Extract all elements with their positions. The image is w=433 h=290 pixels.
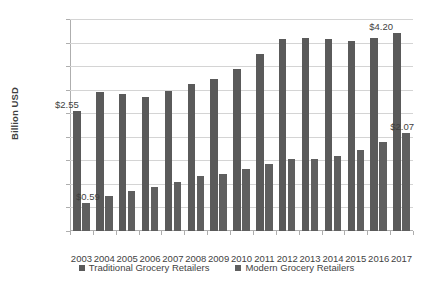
gridline [70, 43, 413, 44]
bar-traditional-grocery-retailers-2003 [73, 111, 81, 231]
data-label: $4.20 [369, 21, 393, 32]
plot-area: $0.00$0.50$1.00$1.50$2.00$2.50$3.00$3.50… [70, 19, 413, 231]
y-axis-tick-mark [66, 19, 70, 20]
bar-traditional-grocery-retailers-2013 [302, 38, 310, 231]
y-axis-tick-mark [66, 137, 70, 138]
y-axis-title: Billion USD [9, 69, 20, 159]
bar-traditional-grocery-retailers-2016 [370, 38, 378, 231]
bar-traditional-grocery-retailers-2015 [348, 41, 356, 231]
bar-traditional-grocery-retailers-2004 [96, 92, 104, 231]
bar-modern-grocery-retailers-2010 [242, 169, 250, 231]
y-axis-tick-mark [66, 43, 70, 44]
x-axis-tick-mark [70, 231, 71, 235]
legend-label: Modern Grocery Retailers [245, 262, 354, 273]
x-axis-tick-mark [276, 231, 277, 235]
x-axis-tick-mark [93, 231, 94, 235]
bar-modern-grocery-retailers-2007 [174, 182, 182, 231]
bar-traditional-grocery-retailers-2012 [279, 39, 287, 231]
x-axis-tick-mark [253, 231, 254, 235]
y-axis-tick-mark [66, 66, 70, 67]
x-axis-tick-mark [299, 231, 300, 235]
x-axis-tick-mark [207, 231, 208, 235]
bar-modern-grocery-retailers-2015 [357, 150, 365, 231]
legend-label: Traditional Grocery Retailers [89, 262, 210, 273]
x-axis-tick-mark [230, 231, 231, 235]
bar-modern-grocery-retailers-2012 [288, 159, 296, 231]
bar-modern-grocery-retailers-2009 [219, 174, 227, 231]
x-axis-tick-mark [413, 231, 414, 235]
gridline [70, 66, 413, 67]
gridline [70, 90, 413, 91]
x-axis-tick-mark [184, 231, 185, 235]
y-axis-tick-mark [66, 207, 70, 208]
bar-traditional-grocery-retailers-2010 [233, 69, 241, 231]
bar-traditional-grocery-retailers-2008 [188, 84, 196, 231]
legend-swatch-icon [79, 265, 85, 271]
x-axis-tick-mark [116, 231, 117, 235]
y-axis-tick-mark [66, 184, 70, 185]
x-axis-tick-mark [322, 231, 323, 235]
bar-traditional-grocery-retailers-2005 [119, 94, 127, 231]
bar-modern-grocery-retailers-2003 [82, 203, 90, 231]
x-axis-tick-mark [390, 231, 391, 235]
bar-modern-grocery-retailers-2014 [334, 156, 342, 231]
gridline [70, 19, 413, 20]
data-label: $2.07 [390, 121, 414, 132]
x-axis-tick-mark [344, 231, 345, 235]
y-axis-tick-mark [66, 113, 70, 114]
bar-modern-grocery-retailers-2004 [105, 196, 113, 231]
bar-modern-grocery-retailers-2006 [151, 187, 159, 231]
bar-modern-grocery-retailers-2005 [128, 191, 136, 231]
data-label: $0.59 [76, 191, 100, 202]
legend-item[interactable]: Modern Grocery Retailers [235, 262, 354, 273]
bar-traditional-grocery-retailers-2009 [210, 79, 218, 231]
x-axis-tick-mark [367, 231, 368, 235]
bar-modern-grocery-retailers-2008 [197, 176, 205, 231]
bar-modern-grocery-retailers-2011 [265, 164, 273, 231]
x-axis-tick-mark [161, 231, 162, 235]
y-axis-tick-mark [66, 90, 70, 91]
bar-traditional-grocery-retailers-2014 [325, 39, 333, 231]
y-axis-tick-mark [66, 160, 70, 161]
x-axis-tick-mark [139, 231, 140, 235]
chart-legend: Traditional Grocery RetailersModern Groc… [0, 262, 433, 273]
bar-traditional-grocery-retailers-2006 [142, 97, 150, 231]
bar-traditional-grocery-retailers-2011 [256, 54, 264, 231]
legend-swatch-icon [235, 265, 241, 271]
bar-modern-grocery-retailers-2016 [379, 142, 387, 231]
bar-modern-grocery-retailers-2013 [311, 159, 319, 231]
legend-item[interactable]: Traditional Grocery Retailers [79, 262, 210, 273]
bar-modern-grocery-retailers-2017 [402, 133, 410, 231]
data-label: $2.55 [55, 99, 79, 110]
bar-traditional-grocery-retailers-2007 [165, 91, 173, 231]
grocery-retail-bar-chart: Billion USD $0.00$0.50$1.00$1.50$2.00$2.… [0, 0, 433, 290]
